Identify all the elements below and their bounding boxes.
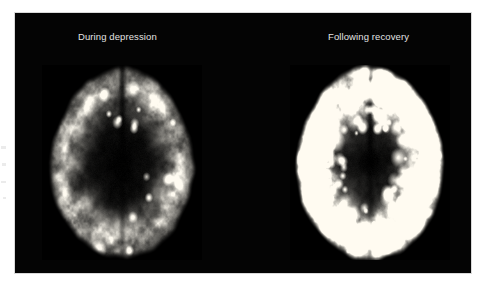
scan-panel: During depression Following recovery [15, 13, 471, 273]
brain-scan-following-recovery [290, 65, 450, 260]
margin-artifact [3, 197, 6, 199]
panel-label-during-depression: During depression [78, 31, 157, 43]
margin-artifact [1, 181, 6, 183]
margin-artifact [2, 163, 6, 166]
margin-artifact [1, 146, 6, 149]
brain-scan-figure: During depression Following recovery [0, 0, 492, 294]
brain-scan-during-depression [42, 65, 202, 260]
brain-scan-image-left [42, 65, 202, 260]
panel-label-following-recovery: Following recovery [328, 31, 409, 43]
brain-scan-image-right [290, 65, 450, 260]
